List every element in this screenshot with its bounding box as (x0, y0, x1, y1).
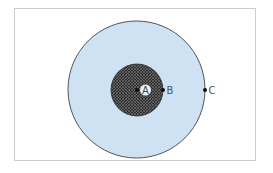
point-a-dot (135, 88, 139, 92)
point-b-label: B (167, 85, 174, 96)
point-c-dot (203, 88, 207, 92)
point-b-dot (161, 88, 165, 92)
concentric-circles-diagram: A B C (0, 0, 273, 173)
point-a-label: A (142, 85, 149, 96)
point-c-label: C (209, 85, 216, 96)
